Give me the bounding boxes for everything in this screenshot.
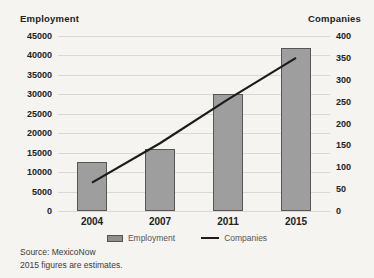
y-tick-left: 40000: [0, 50, 52, 60]
y-tick-left: 35000: [0, 70, 52, 80]
companies-trend-line: [58, 36, 330, 211]
x-tick-2004: 2004: [81, 216, 103, 227]
gridline: [58, 211, 330, 212]
legend: Employment Companies: [0, 232, 374, 244]
y-tick-right: 0: [336, 206, 370, 216]
y-tick-left: 10000: [0, 167, 52, 177]
plot-area: [58, 36, 330, 211]
y-tick-left: 45000: [0, 31, 52, 41]
legend-item-employment: Employment: [107, 233, 175, 243]
y-tick-right: 100: [336, 162, 370, 172]
companies-line-swatch-icon: [201, 237, 219, 239]
y-tick-left: 30000: [0, 89, 52, 99]
x-tick-2007: 2007: [149, 216, 171, 227]
legend-label-employment: Employment: [128, 233, 175, 243]
y-axis-right: 400350300250200150100500: [336, 36, 370, 211]
y-tick-left: 0: [0, 206, 52, 216]
left-axis-title: Employment: [20, 13, 79, 24]
y-tick-left: 15000: [0, 148, 52, 158]
employment-companies-chart: Employment Companies 4500040000350003000…: [0, 0, 374, 278]
y-tick-right: 300: [336, 75, 370, 85]
legend-label-companies: Companies: [224, 233, 267, 243]
source-note: Source: MexicoNow 2015 figures are estim…: [20, 246, 123, 272]
employment-bar-swatch-icon: [107, 235, 123, 242]
legend-item-companies: Companies: [201, 233, 267, 243]
x-tick-2011: 2011: [217, 216, 239, 227]
x-axis: 2004200720112015: [58, 216, 330, 229]
y-axis-left: 4500040000350003000025000200001500010000…: [0, 36, 52, 211]
estimates-note: 2015 figures are estimates.: [20, 259, 123, 272]
y-tick-left: 5000: [0, 187, 52, 197]
y-tick-right: 250: [336, 97, 370, 107]
y-tick-right: 400: [336, 31, 370, 41]
right-axis-title: Companies: [308, 13, 361, 24]
y-tick-right: 150: [336, 140, 370, 150]
source-line: Source: MexicoNow: [20, 246, 123, 259]
y-tick-right: 350: [336, 53, 370, 63]
y-tick-right: 200: [336, 119, 370, 129]
y-tick-right: 50: [336, 184, 370, 194]
y-tick-left: 20000: [0, 128, 52, 138]
x-tick-2015: 2015: [285, 216, 307, 227]
y-tick-left: 25000: [0, 109, 52, 119]
